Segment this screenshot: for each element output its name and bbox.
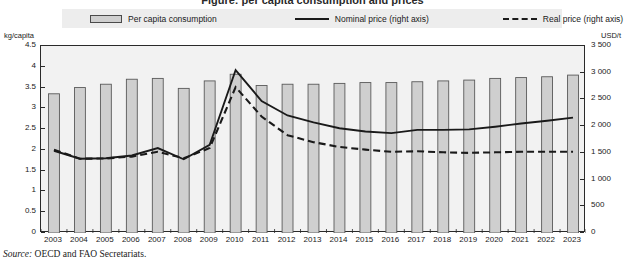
chart-legend: Per capita consumption Nominal price (ri… [62, 9, 562, 28]
right-axis-tick-2500: 2 500 [591, 94, 625, 102]
legend-item-per-capita-consumption: Per capita consumption [90, 14, 217, 24]
plot-area [40, 45, 585, 232]
left-axis-unit-label: kg/capita [4, 31, 34, 40]
chart-canvas [41, 46, 586, 233]
solid-line-swatch-icon [295, 18, 329, 20]
bar-2021 [516, 78, 527, 233]
bar-2014 [334, 83, 345, 233]
left-axis-tick-1: 1 [6, 186, 36, 194]
left-axis-tick-0: 0 [6, 228, 36, 236]
source-note: Source: OECD and FAO Secretariats. [3, 249, 146, 259]
right-tick-mark [580, 45, 584, 46]
left-axis-tick-3-5: 3.5 [6, 83, 36, 91]
right-axis-unit-label: USD/t [601, 31, 621, 40]
source-prefix: Source: [3, 249, 32, 259]
left-axis-tick-1-5: 1.5 [6, 166, 36, 174]
left-axis-tick-2-5: 2.5 [6, 124, 36, 132]
left-axis-tick-4: 4 [6, 62, 36, 70]
right-axis-tick-0: 0 [591, 228, 625, 236]
bar-2007 [152, 78, 163, 233]
left-tick-mark [41, 87, 45, 88]
left-tick-mark [41, 149, 45, 150]
legend-label-nominal-price: Nominal price (right axis) [335, 14, 429, 24]
right-tick-mark [580, 98, 584, 99]
left-axis-tick-3: 3 [6, 103, 36, 111]
left-tick-mark [41, 211, 45, 212]
right-tick-mark [580, 152, 584, 153]
bar-2011 [256, 85, 267, 233]
legend-item-real-price: Real price (right axis) [503, 14, 623, 24]
left-tick-mark [41, 107, 45, 108]
bar-2017 [412, 82, 423, 233]
left-tick-mark [41, 66, 45, 67]
left-axis-tick-0-5: 0.5 [6, 207, 36, 215]
right-tick-mark [580, 125, 584, 126]
right-tick-mark [580, 179, 584, 180]
left-axis-tick-4-5: 4.5 [6, 41, 36, 49]
bar-2022 [542, 77, 553, 233]
right-tick-mark [580, 205, 584, 206]
x-axis-label-2023: 2023 [557, 235, 587, 244]
right-axis-tick-2000: 2 000 [591, 121, 625, 129]
bar-2013 [308, 84, 319, 233]
bar-2008 [178, 88, 189, 233]
right-axis-tick-500: 500 [591, 201, 625, 209]
right-axis-tick-3500: 3 500 [591, 41, 625, 49]
left-tick-mark [41, 170, 45, 171]
bar-2009 [204, 81, 215, 233]
bar-2016 [386, 83, 397, 233]
left-tick-mark [41, 128, 45, 129]
bar-2018 [438, 81, 449, 233]
left-tick-mark [41, 232, 45, 233]
bar-2020 [490, 78, 501, 233]
bar-2003 [49, 94, 60, 233]
right-tick-mark [580, 72, 584, 73]
legend-label-real-price: Real price (right axis) [543, 14, 623, 24]
left-tick-mark [41, 45, 45, 46]
right-tick-mark [580, 232, 584, 233]
bar-2019 [464, 80, 475, 233]
bar-swatch-icon [90, 15, 122, 23]
legend-item-nominal-price: Nominal price (right axis) [295, 14, 429, 24]
left-tick-mark [41, 190, 45, 191]
dashed-line-swatch-icon [503, 18, 537, 20]
legend-label-per-capita-consumption: Per capita consumption [128, 14, 217, 24]
bar-2012 [282, 84, 293, 233]
right-axis-tick-1000: 1 000 [591, 175, 625, 183]
right-axis-tick-1500: 1 500 [591, 148, 625, 156]
bar-2004 [74, 88, 85, 233]
right-axis-tick-3000: 3 000 [591, 68, 625, 76]
figure-container: Figure: per capita consumption and price… [0, 0, 625, 266]
figure-title-cropped: Figure: per capita consumption and price… [0, 0, 625, 7]
left-axis-tick-2: 2 [6, 145, 36, 153]
source-text: OECD and FAO Secretariats. [35, 249, 147, 259]
bar-2023 [568, 75, 579, 233]
bar-2015 [360, 83, 371, 233]
